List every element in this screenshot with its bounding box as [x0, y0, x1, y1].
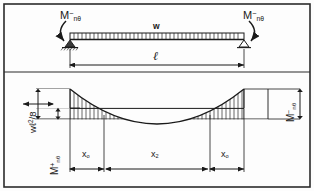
distributed-load-strip [70, 33, 244, 40]
positive-moment-label: M+nθ [50, 156, 61, 175]
right-end-moment-arrow [249, 21, 255, 41]
positive-moment-dimension [55, 108, 60, 120]
left-end-moment-arrow [60, 21, 66, 41]
span-label: ℓ [153, 50, 158, 62]
segment-label-x0-right: xo [221, 150, 229, 160]
pinned-support-icon [61, 40, 78, 50]
negative-moment-label-right: M−nθ [286, 103, 297, 122]
peak-moment-label: wℓ2/8 [28, 112, 38, 133]
segment-label-x0-left: xo [82, 150, 90, 160]
right-end-moment-label: M−nθ [243, 10, 264, 23]
left-end-moment-label: M−nθ [60, 10, 81, 23]
parabolic-moment-area [36, 86, 268, 150]
roller-support-icon [237, 40, 251, 48]
segment-label-x2: x2 [151, 150, 159, 160]
load-label: w [153, 22, 160, 31]
figure-container: M−nθ M−nθ w ℓ wℓ2/8 M+nθ M−nθ xo x2 xo [0, 0, 314, 191]
